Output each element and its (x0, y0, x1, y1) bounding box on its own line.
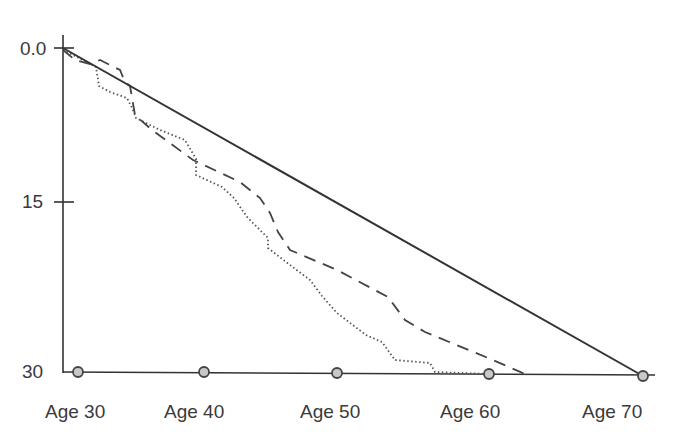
y-tick-label-30: 30 (22, 361, 43, 382)
y-tick-label-15: 15 (22, 191, 43, 212)
x-tick-label-age-40: Age 40 (164, 401, 224, 422)
marker-age-40 (199, 367, 209, 377)
y-ticks (54, 48, 74, 202)
series-dashed (63, 50, 525, 374)
x-axis (63, 372, 655, 375)
series-solid (63, 48, 643, 376)
marker-age-50 (332, 368, 342, 378)
marker-age-30 (73, 367, 83, 377)
chart-svg: 0.0 15 30 Age 30 Age 40 Age 50 Age 60 Ag… (0, 0, 678, 438)
x-tick-label-age-30: Age 30 (45, 401, 105, 422)
chart: 0.0 15 30 Age 30 Age 40 Age 50 Age 60 Ag… (0, 0, 678, 438)
marker-age-60 (484, 369, 494, 379)
y-tick-label-0: 0.0 (20, 38, 46, 59)
marker-age-70 (638, 371, 648, 381)
x-tick-label-age-70: Age 70 (582, 401, 642, 422)
x-tick-label-age-60: Age 60 (440, 401, 500, 422)
series-dotted (63, 50, 489, 374)
x-tick-label-age-50: Age 50 (300, 401, 360, 422)
